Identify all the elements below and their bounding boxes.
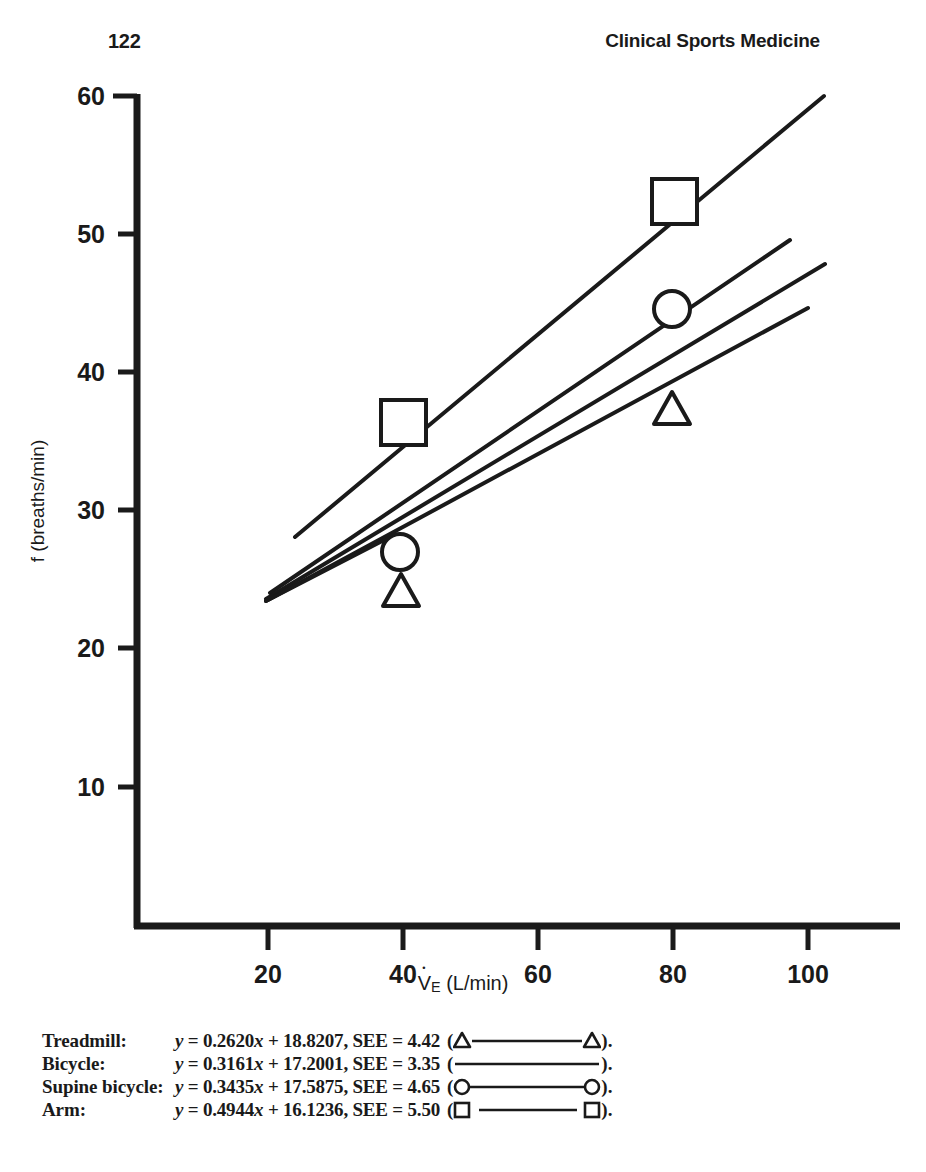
caption-label-treadmill: Treadmill: <box>0 1030 175 1052</box>
chart-axes <box>134 94 900 928</box>
caption-label-supine-bicycle: Supine bicycle: <box>0 1076 175 1098</box>
regression-line-chart: 60 50 40 30 20 10 20 40 60 80 100 <box>0 60 926 1020</box>
running-head: 122 Clinical Sports Medicine <box>0 30 926 58</box>
caption-key-bicycle: ( ). <box>440 1053 612 1075</box>
eq-y: y <box>175 1053 183 1074</box>
square-line-icon <box>453 1100 601 1120</box>
eq-tail: + 17.5875, SEE = 4.65 <box>263 1076 440 1097</box>
series-line-bicycle-stub <box>266 538 388 601</box>
caption-label-arm: Arm: <box>0 1099 175 1121</box>
eq-y: y <box>175 1030 183 1051</box>
triangle-line-icon <box>453 1031 601 1051</box>
y-tick-label-30: 30 <box>77 496 105 524</box>
x-axis-title-subscript: E <box>431 979 441 995</box>
y-axis-title: f (breaths/min) <box>27 401 49 601</box>
circle-line-icon <box>453 1077 601 1097</box>
caption-equation-treadmill: y = 0.2620x + 18.8207, SEE = 4.42 <box>175 1030 440 1052</box>
eq-x: x <box>254 1076 263 1097</box>
marker-circle-supine-80 <box>654 291 690 327</box>
page-number: 122 <box>108 30 140 53</box>
y-tick-label-60: 60 <box>77 82 105 110</box>
eq-tail: + 17.2001, SEE = 3.35 <box>263 1053 440 1074</box>
series-line-bicycle <box>266 264 825 599</box>
eq-mid: = 0.3161 <box>183 1053 254 1074</box>
figure-caption: Treadmill: y = 0.2620x + 18.8207, SEE = … <box>0 1030 926 1122</box>
y-tick-label-50: 50 <box>77 220 105 248</box>
x-axis-title: VE (L/min) <box>0 972 926 995</box>
key-paren-close: ). <box>601 1099 612 1121</box>
series-line-arm <box>295 96 824 537</box>
eq-mid: = 0.2620 <box>183 1030 254 1051</box>
marker-triangle-treadmill-40 <box>383 574 419 606</box>
x-axis-title-vdot: V <box>418 972 431 995</box>
eq-mid: = 0.4944 <box>183 1099 254 1120</box>
caption-key-supine-bicycle: ( ). <box>440 1076 612 1098</box>
eq-x: x <box>254 1099 263 1120</box>
eq-x: x <box>254 1030 263 1051</box>
eq-y: y <box>175 1076 183 1097</box>
marker-circle-supine-40 <box>382 534 418 570</box>
key-paren-close: ). <box>601 1076 612 1098</box>
caption-row: Supine bicycle: y = 0.3435x + 17.5875, S… <box>0 1076 926 1099</box>
caption-key-arm: ( ). <box>440 1099 612 1121</box>
y-axis-ticks <box>113 96 137 787</box>
caption-label-bicycle: Bicycle: <box>0 1053 175 1075</box>
marker-triangle-treadmill-80 <box>654 392 690 424</box>
marker-square-arm-80 <box>652 179 697 224</box>
eq-tail: + 16.1236, SEE = 5.50 <box>263 1099 440 1120</box>
caption-equation-supine-bicycle: y = 0.3435x + 17.5875, SEE = 4.65 <box>175 1076 440 1098</box>
caption-row: Treadmill: y = 0.2620x + 18.8207, SEE = … <box>0 1030 926 1053</box>
x-axis-ticks <box>268 926 808 950</box>
eq-y: y <box>175 1099 183 1120</box>
book-title: Clinical Sports Medicine <box>605 30 820 52</box>
y-tick-label-20: 20 <box>77 634 105 662</box>
figure-chart: 60 50 40 30 20 10 20 40 60 80 100 <box>0 60 926 1020</box>
y-axis-tick-labels: 60 50 40 30 20 10 <box>77 82 105 801</box>
y-tick-label-10: 10 <box>77 773 105 801</box>
key-paren-close: ). <box>601 1053 612 1075</box>
caption-equation-bicycle: y = 0.3161x + 17.2001, SEE = 3.35 <box>175 1053 440 1075</box>
caption-row: Bicycle: y = 0.3161x + 17.2001, SEE = 3.… <box>0 1053 926 1076</box>
caption-key-treadmill: ( ). <box>440 1030 612 1052</box>
caption-equation-arm: y = 0.4944x + 16.1236, SEE = 5.50 <box>175 1099 440 1121</box>
series-line-supine-bicycle <box>270 240 790 593</box>
eq-mid: = 0.3435 <box>183 1076 254 1097</box>
eq-tail: + 18.8207, SEE = 4.42 <box>263 1030 440 1051</box>
key-paren-close: ). <box>601 1030 612 1052</box>
marker-square-arm-40 <box>381 400 426 445</box>
eq-x: x <box>254 1053 263 1074</box>
plain-line-icon <box>453 1054 601 1074</box>
x-axis-title-units: (L/min) <box>441 972 509 994</box>
caption-row: Arm: y = 0.4944x + 16.1236, SEE = 5.50 (… <box>0 1099 926 1122</box>
y-tick-label-40: 40 <box>77 358 105 386</box>
